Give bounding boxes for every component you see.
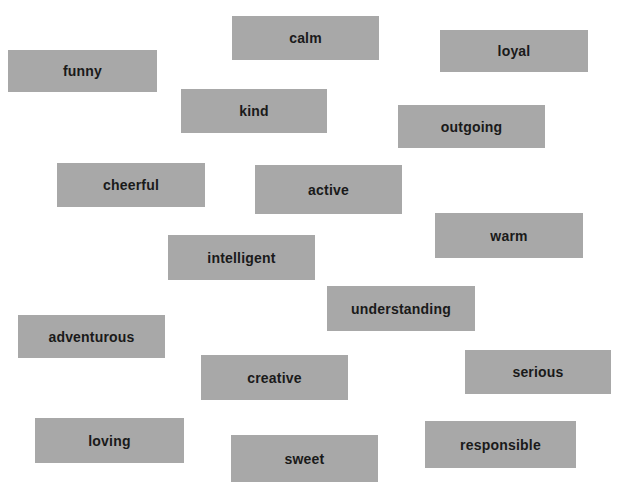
word-card-label: cheerful — [103, 178, 159, 192]
word-card-understanding[interactable]: understanding — [327, 286, 475, 331]
word-card-loving[interactable]: loving — [35, 418, 184, 463]
word-card-loyal[interactable]: loyal — [440, 30, 588, 72]
word-card-active[interactable]: active — [255, 165, 402, 214]
word-card-cheerful[interactable]: cheerful — [57, 163, 205, 207]
word-card-label: intelligent — [207, 251, 275, 265]
word-card-label: creative — [247, 371, 302, 385]
word-card-label: adventurous — [48, 330, 134, 344]
word-card-label: loyal — [498, 44, 531, 58]
word-card-label: warm — [490, 229, 527, 243]
word-card-label: active — [308, 183, 349, 197]
word-card-adventurous[interactable]: adventurous — [18, 315, 165, 358]
word-card-label: serious — [512, 365, 563, 379]
word-card-calm[interactable]: calm — [232, 16, 379, 60]
word-card-label: sweet — [285, 452, 325, 466]
word-card-sweet[interactable]: sweet — [231, 435, 378, 482]
word-card-serious[interactable]: serious — [465, 350, 611, 394]
word-card-kind[interactable]: kind — [181, 89, 327, 133]
word-card-warm[interactable]: warm — [435, 213, 583, 258]
word-card-outgoing[interactable]: outgoing — [398, 105, 545, 148]
word-card-intelligent[interactable]: intelligent — [168, 235, 315, 280]
word-card-label: kind — [239, 104, 269, 118]
word-card-canvas: calmloyalfunnykindoutgoingcheerfulactive… — [0, 0, 622, 493]
word-card-label: outgoing — [441, 120, 502, 134]
word-card-label: loving — [88, 434, 130, 448]
word-card-label: responsible — [460, 438, 541, 452]
word-card-responsible[interactable]: responsible — [425, 421, 576, 468]
word-card-funny[interactable]: funny — [8, 50, 157, 92]
word-card-label: funny — [63, 64, 102, 78]
word-card-label: calm — [289, 31, 322, 45]
word-card-creative[interactable]: creative — [201, 355, 348, 400]
word-card-label: understanding — [351, 302, 451, 316]
